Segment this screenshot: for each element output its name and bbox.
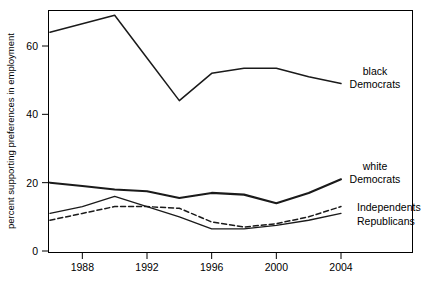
series-line-independents — [50, 207, 341, 228]
data-series-group — [50, 15, 341, 229]
x-tick-label-2000: 2000 — [265, 261, 289, 273]
figure-container: 0204060 19881992199620002004 blackDemocr… — [0, 0, 423, 282]
series-line-white-democrats — [50, 179, 341, 203]
y-axis-title: percent supporting preferences in employ… — [5, 33, 16, 229]
figure-caption — [0, 275, 423, 282]
series-label-independents: Independents — [357, 201, 421, 213]
x-tick-label-1988: 1988 — [71, 261, 95, 273]
y-tick-label-0: 0 — [32, 245, 38, 257]
x-axis-tick-labels: 19881992199620002004 — [71, 261, 353, 273]
series-label-black-democrats-line1: black — [363, 65, 388, 77]
x-tick-label-2004: 2004 — [329, 261, 353, 273]
series-line-black-democrats — [50, 15, 341, 100]
y-tick-label-40: 40 — [26, 108, 38, 120]
line-chart: 0204060 19881992199620002004 blackDemocr… — [0, 0, 423, 282]
series-label-black-democrats-line2: Democrats — [350, 78, 401, 90]
series-label-republicans: Republicans — [357, 215, 415, 227]
x-tick-label-1992: 1992 — [135, 261, 159, 273]
y-tick-label-20: 20 — [26, 177, 38, 189]
y-axis-tick-labels: 0204060 — [26, 40, 38, 257]
series-line-republicans — [50, 196, 341, 228]
y-tick-label-60: 60 — [26, 40, 38, 52]
x-axis-ticks — [82, 253, 341, 260]
x-tick-label-1996: 1996 — [200, 261, 224, 273]
series-label-white-democrats-line2: Democrats — [350, 173, 401, 185]
series-label-white-democrats-line1: white — [362, 160, 388, 172]
y-axis-ticks — [42, 46, 49, 251]
series-labels-group: blackDemocratswhiteDemocratsIndependents… — [350, 65, 421, 228]
